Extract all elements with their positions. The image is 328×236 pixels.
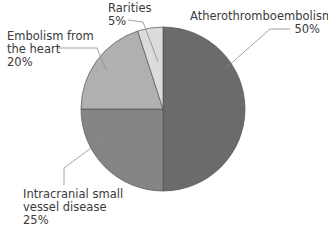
- label-small-vessel: Intracranial small vessel disease 25%: [23, 188, 123, 227]
- label-percent: 25%: [23, 214, 123, 227]
- label-atherothromboembolism: Atherothromboembolism 50%: [190, 10, 320, 36]
- label-rarities: Rarities 5%: [108, 2, 151, 28]
- label-embolism-heart: Embolism from the heart 20%: [7, 30, 94, 69]
- label-percent: 20%: [7, 56, 94, 69]
- slice-small-vessel: [81, 109, 163, 191]
- slice-atherothromboembolism: [163, 27, 245, 191]
- label-percent: 5%: [108, 15, 151, 28]
- label-percent: 50%: [190, 23, 320, 36]
